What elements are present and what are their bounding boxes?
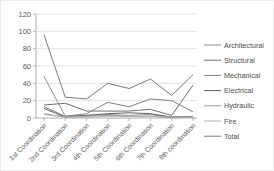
y-tick-label: 120 bbox=[18, 10, 31, 19]
legend-label-total: Total bbox=[224, 132, 240, 141]
coordination-line-chart-figure: 0204060801001201st Coordination2nd Coord… bbox=[0, 0, 274, 171]
y-tick-label: 0 bbox=[27, 114, 31, 123]
legend-label-architectural: Architectural bbox=[224, 41, 264, 50]
legend-label-mechanical: Mechanical bbox=[224, 71, 261, 80]
x-tick-label: 7th Coordination bbox=[135, 122, 175, 162]
series-line-total bbox=[44, 35, 193, 99]
y-tick-label: 20 bbox=[23, 96, 31, 105]
x-tick-label: 6th Coordination bbox=[114, 122, 154, 162]
y-tick-label: 80 bbox=[23, 44, 31, 53]
line-chart-svg: 0204060801001201st Coordination2nd Coord… bbox=[1, 1, 274, 171]
y-tick-label: 60 bbox=[23, 62, 31, 71]
legend-label-structural: Structural bbox=[224, 56, 255, 65]
x-tick-label: 4th Coordination bbox=[71, 122, 111, 162]
x-tick-label: 3rd Coordination bbox=[50, 122, 91, 163]
x-tick-label: 5th Coordination bbox=[93, 122, 133, 162]
legend-label-fire: Fire bbox=[224, 117, 236, 126]
x-tick-label: 1st Coordination bbox=[8, 122, 48, 162]
y-tick-label: 40 bbox=[23, 79, 31, 88]
legend-label-hydraulic: Hydraulic bbox=[224, 101, 254, 110]
legend-label-electrical: Electrical bbox=[224, 86, 254, 95]
x-tick-label: 2nd Coordination bbox=[27, 122, 69, 164]
y-tick-label: 100 bbox=[18, 27, 31, 36]
